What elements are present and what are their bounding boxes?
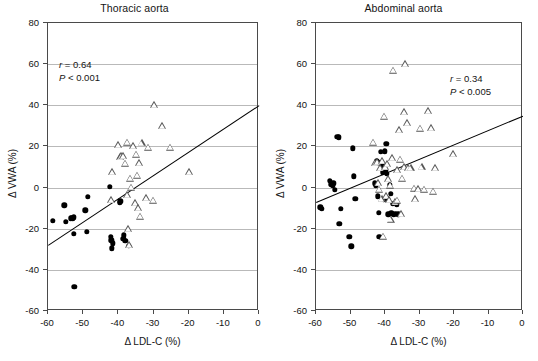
data-point-filled-circle bbox=[337, 221, 342, 226]
data-point-filled-circle bbox=[336, 135, 341, 140]
y-tick-mark bbox=[311, 269, 315, 270]
y-axis-label: Δ VWA (%) bbox=[275, 149, 286, 198]
x-tick-mark bbox=[82, 310, 83, 314]
data-point-open-triangle bbox=[400, 108, 408, 115]
y-tick-mark bbox=[43, 269, 47, 270]
data-point-open-triangle bbox=[149, 196, 157, 203]
x-tick-label: -10 bbox=[481, 317, 495, 328]
data-point-open-triangle bbox=[133, 171, 141, 178]
data-point-open-triangle bbox=[135, 159, 143, 166]
data-point-open-triangle bbox=[427, 124, 435, 131]
data-point-open-triangle bbox=[424, 107, 432, 114]
data-point-filled-circle bbox=[121, 233, 126, 238]
data-point-open-triangle bbox=[420, 185, 428, 192]
data-point-filled-circle bbox=[348, 244, 353, 249]
data-point-open-triangle bbox=[127, 183, 135, 190]
gridline bbox=[316, 270, 521, 271]
y-tick-mark bbox=[311, 228, 315, 229]
y-tick-label: 40 bbox=[5, 99, 39, 110]
data-point-open-triangle bbox=[429, 187, 437, 194]
data-point-filled-circle bbox=[109, 246, 114, 251]
x-tick-mark bbox=[223, 310, 224, 314]
x-tick-label: -40 bbox=[110, 317, 124, 328]
data-point-filled-circle bbox=[71, 231, 76, 236]
x-tick-label: -30 bbox=[146, 317, 160, 328]
x-tick-label: -60 bbox=[40, 317, 54, 328]
data-point-filled-circle bbox=[72, 284, 77, 289]
gridline bbox=[316, 105, 521, 106]
data-point-open-triangle bbox=[108, 168, 116, 175]
data-point-filled-circle bbox=[382, 149, 387, 154]
y-tick-label: 80 bbox=[273, 17, 307, 28]
figure-root: Thoracic aorta -60-40-20020406080-60-50-… bbox=[0, 0, 538, 361]
y-axis-label: Δ VWA (%) bbox=[7, 149, 18, 198]
data-point-open-triangle bbox=[124, 225, 132, 232]
stat-r: r = 0.64 bbox=[59, 58, 100, 71]
data-point-open-triangle bbox=[144, 143, 152, 150]
data-point-filled-circle bbox=[110, 240, 115, 245]
data-point-open-triangle bbox=[158, 122, 166, 129]
data-point-open-triangle bbox=[119, 152, 127, 159]
x-tick-mark bbox=[153, 310, 154, 314]
y-tick-mark bbox=[43, 228, 47, 229]
gridline bbox=[48, 146, 257, 147]
y-tick-label: -20 bbox=[5, 222, 39, 233]
data-point-open-triangle bbox=[416, 124, 424, 131]
y-tick-mark bbox=[311, 22, 315, 23]
data-point-open-triangle bbox=[121, 159, 129, 166]
x-tick-label: -20 bbox=[181, 317, 195, 328]
data-point-filled-circle bbox=[353, 196, 358, 201]
data-point-open-triangle bbox=[379, 232, 387, 239]
x-tick-label: 0 bbox=[519, 317, 524, 328]
data-point-filled-circle bbox=[332, 187, 337, 192]
x-tick-mark bbox=[258, 310, 259, 314]
data-point-filled-circle bbox=[107, 184, 112, 189]
data-point-filled-circle bbox=[71, 214, 76, 219]
x-tick-mark bbox=[419, 310, 420, 314]
data-point-filled-circle bbox=[376, 210, 381, 215]
y-tick-mark bbox=[311, 63, 315, 64]
data-point-open-triangle bbox=[449, 150, 457, 157]
y-tick-mark bbox=[311, 145, 315, 146]
data-point-filled-circle bbox=[118, 198, 123, 203]
y-tick-mark bbox=[43, 187, 47, 188]
x-tick-mark bbox=[188, 310, 189, 314]
y-tick-mark bbox=[311, 104, 315, 105]
gridline bbox=[316, 64, 521, 65]
gridline bbox=[48, 270, 257, 271]
regression-line bbox=[48, 105, 260, 246]
data-point-filled-circle bbox=[351, 174, 356, 179]
data-point-open-triangle bbox=[114, 141, 122, 148]
stat-p: P < 0.005 bbox=[450, 85, 491, 98]
data-point-open-triangle bbox=[166, 143, 174, 150]
x-tick-mark bbox=[315, 310, 316, 314]
plot-area bbox=[315, 22, 522, 310]
data-point-open-triangle bbox=[418, 163, 426, 170]
x-tick-label: -30 bbox=[412, 317, 426, 328]
data-point-open-triangle bbox=[393, 196, 401, 203]
y-tick-mark bbox=[43, 104, 47, 105]
y-tick-label: -60 bbox=[273, 305, 307, 316]
data-point-open-triangle bbox=[397, 210, 405, 217]
data-point-filled-circle bbox=[84, 229, 89, 234]
x-axis-label: Δ LDL-C (%) bbox=[47, 336, 258, 347]
panel-abdominal-aorta: Abdominal aorta -60-40-20020406080-60-50… bbox=[269, 0, 538, 361]
gridline bbox=[316, 229, 521, 230]
data-point-open-triangle bbox=[369, 138, 377, 145]
y-tick-mark bbox=[43, 145, 47, 146]
data-point-open-triangle bbox=[134, 204, 142, 211]
x-tick-mark bbox=[384, 310, 385, 314]
y-tick-label: 40 bbox=[273, 99, 307, 110]
data-point-open-triangle bbox=[395, 126, 403, 133]
data-point-filled-circle bbox=[319, 206, 324, 211]
data-point-open-triangle bbox=[150, 101, 158, 108]
data-point-filled-circle bbox=[338, 206, 343, 211]
x-tick-mark bbox=[453, 310, 454, 314]
x-tick-label: -50 bbox=[343, 317, 357, 328]
x-tick-label: -60 bbox=[308, 317, 322, 328]
x-tick-label: -50 bbox=[75, 317, 89, 328]
y-tick-label: -40 bbox=[273, 263, 307, 274]
y-tick-label: -60 bbox=[5, 305, 39, 316]
data-point-open-triangle bbox=[380, 112, 388, 119]
data-point-filled-circle bbox=[85, 194, 90, 199]
